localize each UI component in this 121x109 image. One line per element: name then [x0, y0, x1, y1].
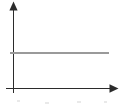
scan-artifact-mark	[45, 102, 49, 104]
scan-artifact-mark	[77, 101, 81, 103]
scan-artifact-mark	[17, 100, 20, 102]
chart-canvas	[0, 0, 121, 109]
chart-figure	[0, 0, 121, 109]
scan-artifact-mark	[104, 101, 107, 103]
chart-background	[0, 0, 121, 109]
